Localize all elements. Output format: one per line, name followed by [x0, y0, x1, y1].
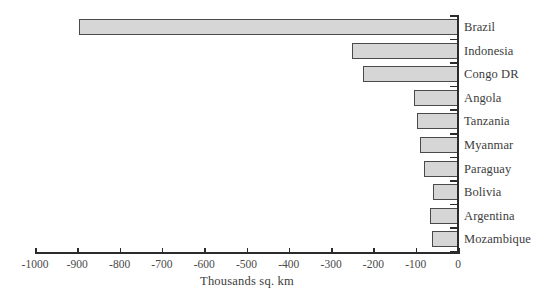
category-label: Myanmar [464, 135, 513, 156]
x-axis-tick-label: -800 [109, 258, 130, 270]
bar-row: Paraguay [0, 158, 557, 182]
category-label: Indonesia [464, 41, 514, 62]
category-label: Congo DR [464, 64, 519, 85]
category-label: Paraguay [464, 159, 511, 180]
x-axis-tick-label: -300 [321, 258, 342, 270]
x-axis-tick-label: -700 [151, 258, 172, 270]
bar-chart: BrazilIndonesiaCongo DRAngolaTanzaniaMya… [0, 0, 557, 296]
y-axis-tick [450, 133, 457, 135]
x-axis-title: Thousands sq. km [0, 274, 494, 289]
bar-row: Angola [0, 87, 557, 111]
x-axis-tick-label: 0 [455, 258, 461, 270]
x-axis-tick-label: -900 [67, 258, 88, 270]
bar[interactable] [430, 208, 458, 224]
x-axis-tick-label: -1000 [22, 258, 49, 270]
x-axis-tick [120, 248, 122, 254]
x-axis-tick [247, 248, 249, 254]
x-axis-tick [77, 248, 79, 254]
bar[interactable] [79, 19, 458, 35]
x-axis-tick [373, 248, 375, 254]
category-label: Brazil [464, 17, 495, 38]
x-axis-tick [289, 248, 291, 254]
x-axis-tick [162, 248, 164, 254]
category-label: Angola [464, 88, 501, 109]
bar[interactable] [432, 231, 458, 247]
y-axis-line [457, 15, 459, 254]
bar[interactable] [363, 66, 458, 82]
y-axis-tick [450, 227, 457, 229]
y-axis-tick [450, 204, 457, 206]
x-axis-tick-label: -500 [236, 258, 257, 270]
category-label: Tanzania [464, 111, 510, 132]
bar-row: Brazil [0, 16, 557, 40]
bar[interactable] [414, 90, 458, 106]
category-label: Bolivia [464, 182, 502, 203]
bar[interactable] [424, 161, 458, 177]
bar-row: Myanmar [0, 134, 557, 158]
y-axis-tick [450, 109, 457, 111]
bar[interactable] [417, 113, 458, 129]
bar-row: Indonesia [0, 40, 557, 64]
x-axis-tick [35, 248, 37, 254]
x-axis-tick [416, 248, 418, 254]
y-axis-tick [450, 15, 457, 17]
y-axis-tick [450, 180, 457, 182]
x-axis-tick-label: -400 [278, 258, 299, 270]
bar-row: Congo DR [0, 63, 557, 87]
x-axis-tick-label: -600 [194, 258, 215, 270]
x-axis-tick [331, 248, 333, 254]
bar[interactable] [352, 43, 458, 59]
category-label: Mozambique [464, 229, 531, 250]
y-axis-tick [450, 62, 457, 64]
x-axis-tick-label: -200 [363, 258, 384, 270]
x-axis-tick-label: -100 [405, 258, 426, 270]
bar[interactable] [433, 184, 458, 200]
category-label: Argentina [464, 206, 515, 227]
x-axis-tick [458, 248, 460, 254]
bar-row: Tanzania [0, 110, 557, 134]
x-axis-tick [204, 248, 206, 254]
y-axis-tick [450, 86, 457, 88]
bar-row: Mozambique [0, 228, 557, 252]
bar-row: Argentina [0, 205, 557, 229]
y-axis-tick [450, 39, 457, 41]
y-axis-tick [450, 157, 457, 159]
plot-area: BrazilIndonesiaCongo DRAngolaTanzaniaMya… [0, 0, 557, 296]
bar[interactable] [420, 137, 458, 153]
bar-row: Bolivia [0, 181, 557, 205]
